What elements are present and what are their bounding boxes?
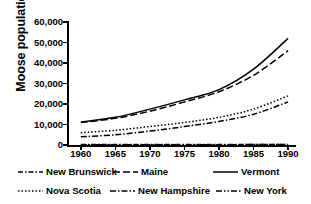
x-tick-label: 1990 xyxy=(268,149,308,159)
y-axis-title: Moose population xyxy=(14,0,32,104)
x-tick-mark xyxy=(149,146,151,150)
x-tick-mark xyxy=(80,146,82,150)
dash-dot-line-sample xyxy=(110,186,135,196)
y-tick-label: 40,000 xyxy=(5,58,63,68)
legend-label: Vermont xyxy=(241,167,279,177)
y-tick-label: 30,000 xyxy=(5,79,63,89)
legend-row: Nova ScotiaNew HampshireNew York xyxy=(0,182,311,200)
x-tick-mark xyxy=(115,146,117,150)
y-tick-label: 10,000 xyxy=(5,120,63,130)
x-tick-mark xyxy=(287,146,289,150)
y-tick-label: 60,000 xyxy=(5,17,63,27)
x-axis-line xyxy=(67,145,296,147)
dashed-line-sample xyxy=(113,167,138,177)
legend-label: New York xyxy=(244,186,287,196)
legend-item[interactable]: Maine xyxy=(113,163,168,181)
y-tick-label: 20,000 xyxy=(5,99,63,109)
x-tick-mark xyxy=(253,146,255,150)
y-tick-label: 50,000 xyxy=(5,38,63,48)
legend-row: New BrunswickMaineVermont xyxy=(0,163,311,181)
moose-population-chart: Moose population 010,00020,00030,00040,0… xyxy=(0,0,311,204)
dash-dot-line-sample xyxy=(18,167,43,177)
chart-legend: New BrunswickMaineVermont Nova ScotiaNew… xyxy=(0,163,311,204)
legend-label: New Hampshire xyxy=(138,186,210,196)
legend-label: Maine xyxy=(141,167,168,177)
legend-item[interactable]: New York xyxy=(216,182,287,200)
legend-label: New Brunswick xyxy=(46,167,117,177)
legend-label: Nova Scotia xyxy=(46,186,101,196)
legend-item[interactable]: New Hampshire xyxy=(110,182,210,200)
x-tick-mark xyxy=(218,146,220,150)
x-tick-mark xyxy=(184,146,186,150)
solid-line-sample xyxy=(213,167,238,177)
plot-area xyxy=(67,22,295,145)
dotted-line-sample xyxy=(18,186,43,196)
y-tick-label: 0 xyxy=(5,140,63,150)
legend-item[interactable]: New Brunswick xyxy=(18,163,117,181)
series-line xyxy=(81,38,288,122)
series-lines xyxy=(67,22,295,145)
dash-dot-dot-line-sample xyxy=(216,186,241,196)
legend-item[interactable]: Nova Scotia xyxy=(18,182,101,200)
legend-item[interactable]: Vermont xyxy=(213,163,279,181)
series-line xyxy=(81,51,288,123)
